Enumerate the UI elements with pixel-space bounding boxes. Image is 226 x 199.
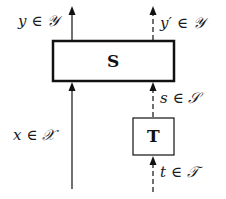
arrowhead-t-to-s	[150, 82, 157, 91]
label-y-out: y ∈ 𝒴	[18, 14, 59, 29]
arrowhead-x-to-s	[69, 82, 76, 91]
label-y-prime-out: y′ ∈ 𝒴	[160, 16, 205, 31]
label-s-in: s ∈ 𝒮	[160, 91, 200, 106]
box-t-label: T	[147, 128, 160, 145]
arrowhead-s-to-yprime	[150, 6, 157, 15]
label-t-in: t ∈ 𝒯	[160, 165, 198, 180]
diagram-canvas: S T y ∈ 𝒴 y′ ∈ 𝒴 x ∈ 𝒳 s ∈ 𝒮 t ∈ 𝒯	[0, 0, 226, 199]
label-x-in: x ∈ 𝒳	[13, 128, 55, 143]
arrowhead-t-to-t	[150, 156, 157, 165]
arrowhead-s-to-y	[69, 6, 76, 15]
box-s-label: S	[107, 53, 119, 70]
